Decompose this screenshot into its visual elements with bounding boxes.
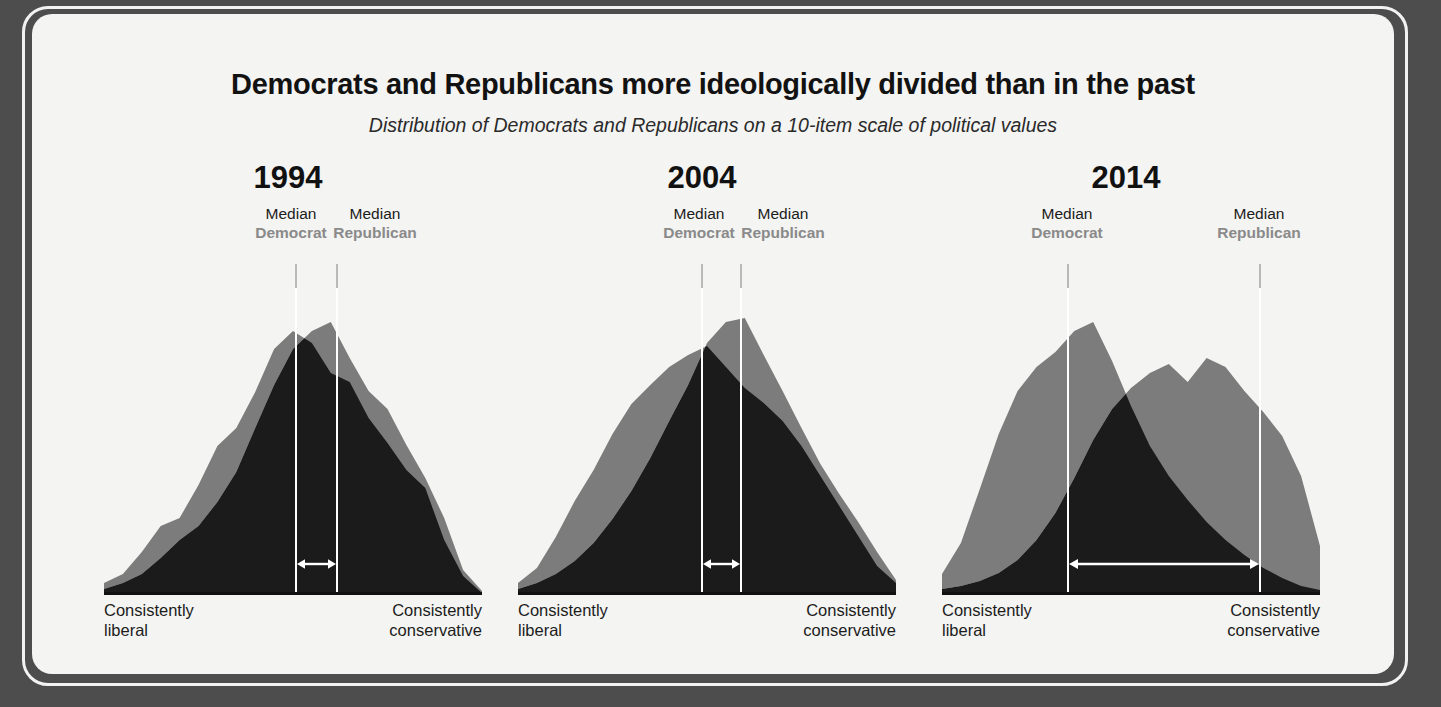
median-democrat-stem-1994 <box>295 264 297 288</box>
panel-2014: 2014 Median Democrat Median Republican <box>916 160 1336 660</box>
page-title: Democrats and Republicans more ideologic… <box>32 68 1394 101</box>
median-word: Median <box>266 205 317 222</box>
axis-right-line2: conservative <box>803 621 896 639</box>
party-republican: Republican <box>310 223 440 242</box>
median-republican-line-2004 <box>740 288 742 592</box>
panel-year-2004: 2004 <box>492 160 912 196</box>
median-republican-label-2004: Median Republican <box>718 204 848 242</box>
gap-arrow-2014 <box>1069 556 1259 572</box>
median-word: Median <box>1042 205 1093 222</box>
axis-label-right-2014: Consistently conservative <box>1227 600 1320 640</box>
gap-arrow-1994 <box>297 556 336 572</box>
median-democrat-label-2014: Median Democrat <box>1002 204 1132 242</box>
axis-label-left-1994: Consistently liberal <box>104 600 194 640</box>
axis-left-line1: Consistently <box>942 601 1032 619</box>
median-democrat-line-2014 <box>1067 288 1069 592</box>
axis-right-line2: conservative <box>389 621 482 639</box>
axis-label-left-2014: Consistently liberal <box>942 600 1032 640</box>
median-republican-stem-2014 <box>1259 264 1261 288</box>
distribution-chart-1994 <box>104 288 482 592</box>
median-republican-label-1994: Median Republican <box>310 204 440 242</box>
distribution-svg-2014 <box>942 288 1320 592</box>
panel-year-1994: 1994 <box>78 160 498 196</box>
panel-2004: 2004 Median Democrat Median Republican <box>492 160 912 660</box>
median-republican-label-2014: Median Republican <box>1194 204 1324 242</box>
median-word: Median <box>350 205 401 222</box>
axis-left-line2: liberal <box>104 621 148 639</box>
axis-right-line1: Consistently <box>806 601 896 619</box>
median-word: Median <box>1234 205 1285 222</box>
outer-frame: Democrats and Republicans more ideologic… <box>0 0 1441 707</box>
axis-baseline-2014 <box>942 592 1320 595</box>
party-republican: Republican <box>1194 223 1324 242</box>
median-democrat-line-1994 <box>295 288 297 592</box>
axis-baseline-1994 <box>104 592 482 595</box>
distribution-svg-2004 <box>518 288 896 592</box>
panel-year-2014: 2014 <box>916 160 1336 196</box>
axis-right-line2: conservative <box>1227 621 1320 639</box>
axis-left-line1: Consistently <box>518 601 608 619</box>
distribution-chart-2014 <box>942 288 1320 592</box>
axis-left-line2: liberal <box>518 621 562 639</box>
median-republican-stem-2004 <box>740 264 742 288</box>
axis-left-line2: liberal <box>942 621 986 639</box>
party-republican: Republican <box>718 223 848 242</box>
axis-label-left-2004: Consistently liberal <box>518 600 608 640</box>
median-republican-line-2014 <box>1259 288 1261 592</box>
axis-left-line1: Consistently <box>104 601 194 619</box>
axis-label-right-1994: Consistently conservative <box>389 600 482 640</box>
median-republican-line-1994 <box>336 288 338 592</box>
axis-baseline-2004 <box>518 592 896 595</box>
distribution-svg-1994 <box>104 288 482 592</box>
panel-1994: 1994 Median Democrat Median Republican <box>78 160 498 660</box>
party-democrat: Democrat <box>1002 223 1132 242</box>
distribution-chart-2004 <box>518 288 896 592</box>
median-word: Median <box>674 205 725 222</box>
median-democrat-line-2004 <box>701 288 703 592</box>
axis-right-line1: Consistently <box>392 601 482 619</box>
page-subtitle: Distribution of Democrats and Republican… <box>32 114 1394 137</box>
axis-label-right-2004: Consistently conservative <box>803 600 896 640</box>
infographic-card: Democrats and Republicans more ideologic… <box>32 14 1394 674</box>
median-democrat-stem-2004 <box>701 264 703 288</box>
median-republican-stem-1994 <box>336 264 338 288</box>
gap-arrow-2004 <box>703 556 740 572</box>
median-democrat-stem-2014 <box>1067 264 1069 288</box>
median-word: Median <box>758 205 809 222</box>
axis-right-line1: Consistently <box>1230 601 1320 619</box>
